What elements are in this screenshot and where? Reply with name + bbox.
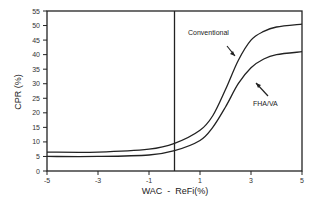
x-axis-ticks: -5-3-1135: [44, 171, 304, 184]
x-axis-label: WAC - ReFi(%): [142, 186, 209, 196]
y-tick-label: 55: [32, 8, 40, 15]
y-tick-label: 0: [36, 168, 40, 175]
y-tick-label: 45: [32, 37, 40, 44]
cpr-chart: 0510152025303540455055 -5-3-1135 CPR (%)…: [0, 0, 320, 207]
y-tick-label: 40: [32, 51, 40, 58]
y-tick-label: 20: [32, 109, 40, 116]
x-tick-label: -1: [146, 177, 152, 184]
x-tick-label: 1: [198, 177, 202, 184]
annotation-conventional: Conventional: [188, 29, 229, 36]
x-tick-label: 5: [300, 177, 304, 184]
x-tick-label: -5: [44, 177, 50, 184]
y-axis-ticks: 0510152025303540455055: [32, 8, 47, 175]
x-tick-label: 3: [249, 177, 253, 184]
y-tick-label: 25: [32, 95, 40, 102]
arrow-head-conventional: [230, 51, 235, 56]
y-axis-label: CPR (%): [13, 74, 23, 110]
y-tick-label: 50: [32, 22, 40, 29]
annotation-fha-va: FHA/VA: [253, 100, 278, 107]
x-tick-label: -3: [95, 177, 101, 184]
y-tick-label: 30: [32, 80, 40, 87]
y-tick-label: 5: [36, 153, 40, 160]
y-tick-label: 10: [32, 138, 40, 145]
y-tick-label: 35: [32, 66, 40, 73]
y-tick-label: 15: [32, 124, 40, 131]
